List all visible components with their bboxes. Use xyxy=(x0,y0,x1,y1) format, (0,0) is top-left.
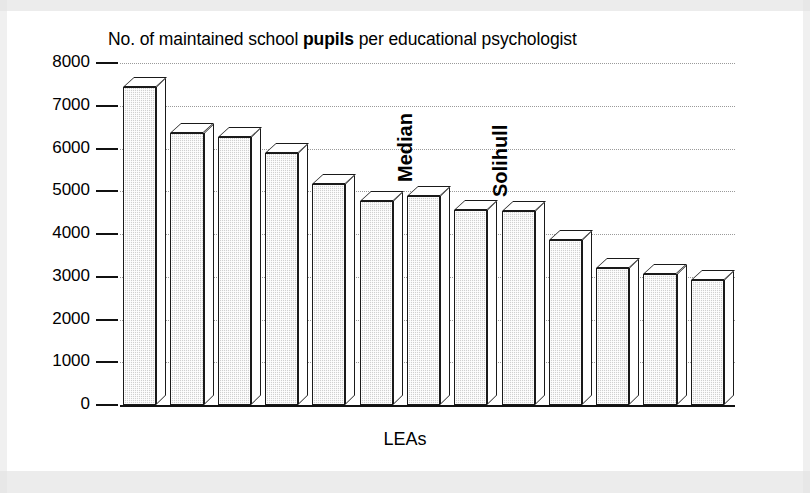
bar-annotation: Median xyxy=(394,113,417,182)
bar-side-face xyxy=(582,230,592,405)
y-axis-tick-label: 6000 xyxy=(52,138,90,158)
bar xyxy=(502,211,535,405)
bar xyxy=(407,196,440,405)
bar-front-face xyxy=(407,196,440,405)
y-axis-tick-mark xyxy=(96,404,118,406)
bar-side-face xyxy=(251,127,261,405)
bar xyxy=(123,87,156,405)
bar xyxy=(454,210,487,405)
plot-area: MedianSolihull xyxy=(120,63,735,405)
bar-front-face xyxy=(502,211,535,405)
bar-side-face xyxy=(535,202,545,405)
y-axis-tick-label: 2000 xyxy=(52,309,90,329)
y-axis-tick-label: 7000 xyxy=(52,95,90,115)
chart-title: No. of maintained school pupils per educ… xyxy=(108,29,577,50)
bar-front-face xyxy=(596,268,629,405)
bar-side-face xyxy=(298,143,308,405)
bar-side-face xyxy=(629,259,639,405)
bar-front-face xyxy=(643,274,676,405)
bar xyxy=(691,280,724,405)
bar-chart: No. of maintained school pupils per educ… xyxy=(0,11,810,471)
bar-front-face xyxy=(312,184,345,405)
y-axis-tick-mark xyxy=(96,276,118,278)
bar-side-face xyxy=(724,270,734,405)
y-axis-tick-mark xyxy=(96,233,118,235)
y-axis-tick-label: 0 xyxy=(81,394,90,414)
y-axis-tick-mark xyxy=(96,105,118,107)
y-axis-tick-label: 3000 xyxy=(52,266,90,286)
bar xyxy=(360,201,393,405)
bar xyxy=(265,153,298,405)
bar xyxy=(549,240,582,405)
bar-front-face xyxy=(218,137,251,405)
x-axis-label: LEAs xyxy=(0,429,810,450)
bar-side-face xyxy=(345,174,355,405)
bar-front-face xyxy=(454,210,487,405)
bar-front-face xyxy=(170,133,203,405)
bar-front-face xyxy=(549,240,582,405)
bar-front-face xyxy=(123,87,156,405)
bar-side-face xyxy=(440,187,450,405)
y-axis-tick-mark xyxy=(96,62,118,64)
y-axis-tick-label: 5000 xyxy=(52,180,90,200)
scan-artifact-bottom xyxy=(0,471,810,493)
axis-baseline xyxy=(120,405,735,407)
y-axis-tick-label: 8000 xyxy=(52,52,90,72)
y-axis-tick-mark xyxy=(96,319,118,321)
bar xyxy=(218,137,251,405)
y-axis-tick-mark xyxy=(96,148,118,150)
y-axis-tick-label: 1000 xyxy=(52,351,90,371)
scan-artifact-top xyxy=(0,0,810,11)
bar-front-face xyxy=(691,280,724,405)
bar-annotation: Solihull xyxy=(489,125,512,197)
bar-side-face xyxy=(156,77,166,405)
y-axis-tick-mark xyxy=(96,361,118,363)
bar-side-face xyxy=(393,191,403,405)
bar xyxy=(170,133,203,405)
bar xyxy=(312,184,345,405)
bar-side-face xyxy=(487,200,497,405)
bar-side-face xyxy=(677,264,687,405)
bar-front-face xyxy=(265,153,298,405)
y-axis-tick-label: 4000 xyxy=(52,223,90,243)
bar xyxy=(596,268,629,405)
y-axis-tick-mark xyxy=(96,190,118,192)
bar-side-face xyxy=(204,123,214,405)
bar-front-face xyxy=(360,201,393,405)
bar xyxy=(643,274,676,405)
